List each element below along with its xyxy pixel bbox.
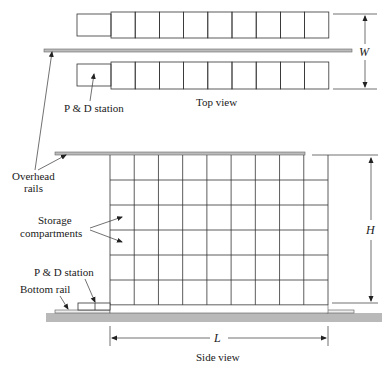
overhead-rails-label-line2: rails: [24, 182, 43, 194]
storage-arrow-2: [90, 230, 122, 242]
pd-station-box-upper: [77, 14, 111, 36]
pd-station-side: [78, 303, 110, 310]
compartment-cell: [208, 62, 232, 89]
pd-station-arrow-side: [85, 279, 95, 302]
storage-compartments-label-line1: Storage: [38, 214, 72, 226]
compartment-cell: [305, 12, 329, 38]
length-label: L: [213, 331, 221, 345]
compartment-cell: [111, 62, 135, 89]
top-view-caption: Top view: [196, 96, 237, 108]
compartment-cell: [159, 12, 183, 38]
rack-base: [110, 305, 328, 313]
height-label: H: [365, 223, 376, 237]
compartment-cell: [135, 62, 159, 89]
top-view-upper-rack: [77, 12, 329, 38]
overhead-rail-top-view: [44, 49, 352, 52]
pd-station-arrow-top: [90, 74, 94, 101]
bottom-rail-label: Bottom rail: [20, 283, 70, 295]
compartment-cell: [232, 62, 256, 89]
compartment-cell: [208, 12, 232, 38]
compartment-cell: [111, 12, 135, 38]
side-view-caption: Side view: [196, 351, 240, 363]
overhead-rails-arrow-side: [38, 155, 66, 170]
storage-grid: [110, 155, 328, 305]
compartment-cell: [305, 62, 329, 89]
compartment-cell: [256, 62, 280, 89]
ground: [46, 313, 382, 322]
bottom-rail-arrow: [60, 296, 68, 309]
bottom-rail-right: [327, 310, 354, 313]
storage-arrow-1: [90, 217, 122, 228]
compartment-cell: [135, 12, 159, 38]
top-view: W P & D station Top view: [44, 12, 377, 114]
compartment-cell: [184, 12, 208, 38]
storage-compartments-label-line2: compartments: [20, 227, 82, 239]
pd-station-label-side: P & D station: [34, 266, 94, 278]
compartment-cell: [280, 12, 304, 38]
overhead-rail-side-view: [55, 152, 305, 155]
pd-station-label-top: P & D station: [64, 102, 124, 114]
compartment-cell: [184, 62, 208, 89]
top-view-lower-rack: [77, 62, 329, 89]
bottom-rail-left: [55, 310, 110, 313]
overhead-rails-arrow-top: [35, 52, 52, 170]
overhead-rails-label-line1: Overhead: [12, 170, 55, 182]
compartment-cell: [159, 62, 183, 89]
compartment-cell: [280, 62, 304, 89]
compartment-cell: [232, 12, 256, 38]
width-label: W: [359, 45, 370, 59]
compartment-cell: [256, 12, 280, 38]
as-rs-diagram: W P & D station Top view Overhead rails …: [0, 0, 392, 372]
